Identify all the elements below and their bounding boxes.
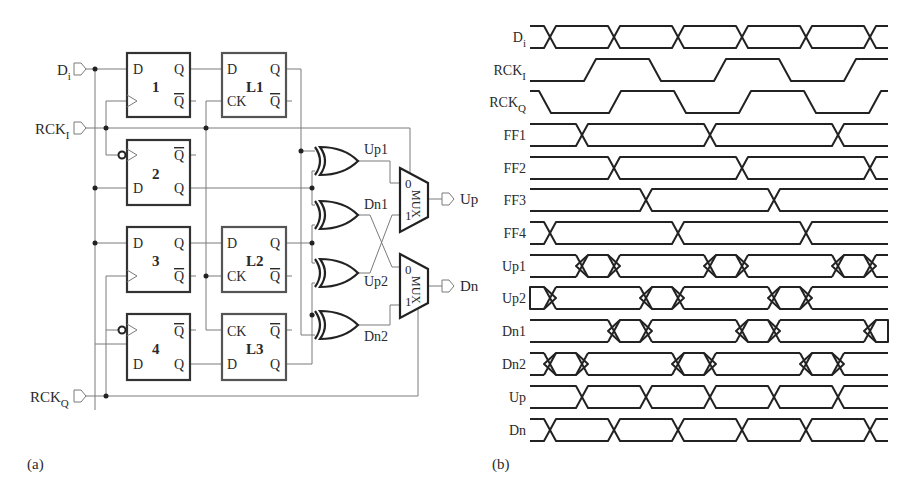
flipflop-2: D Q Q 2 (119, 140, 191, 205)
xor-label-dn1: Dn1 (364, 197, 388, 212)
svg-text:D: D (133, 236, 143, 251)
waveforms (530, 26, 888, 441)
mux-up: 0 1 MUX (400, 168, 428, 232)
signal-label-rcki: RCKI (494, 63, 527, 82)
waveform-rckq (530, 91, 888, 113)
svg-text:L3: L3 (246, 341, 264, 357)
inverted-clock-bubble (119, 327, 126, 334)
svg-text:CK: CK (227, 269, 246, 284)
svg-text:MUX: MUX (409, 190, 423, 218)
svg-text:Q: Q (174, 324, 184, 339)
signal-labels: DiRCKIRCKQFF1FF2FF3FF4Up1Up2Dn1Dn2UpDn (489, 30, 526, 438)
signal-label-ff1: FF1 (503, 128, 526, 143)
svg-text:Q: Q (174, 181, 184, 196)
svg-text:L1: L1 (246, 79, 264, 95)
svg-text:Dn: Dn (460, 278, 479, 294)
svg-text:1: 1 (152, 79, 160, 95)
waveform-dn1 (530, 320, 888, 342)
svg-text:Q: Q (270, 62, 280, 77)
xor-gate-dn1 (315, 201, 358, 229)
waveform-rcki (530, 59, 888, 81)
svg-text:CK: CK (227, 324, 246, 339)
xor-label-up1: Up1 (364, 142, 388, 157)
waveform-ff3 (530, 189, 888, 211)
signal-label-dn1: Dn1 (502, 324, 526, 339)
svg-text:Q: Q (174, 62, 184, 77)
signal-label-dn: Dn (509, 423, 526, 438)
waveform-up1 (530, 255, 888, 277)
svg-text:RCKQ: RCKQ (30, 389, 69, 409)
signal-label-up: Up (509, 390, 526, 405)
svg-text:CK: CK (227, 94, 246, 109)
svg-text:MUX: MUX (409, 276, 423, 304)
svg-text:Q: Q (174, 269, 184, 284)
svg-text:RCKI: RCKI (35, 121, 70, 141)
signal-label-ff4: FF4 (503, 226, 526, 241)
svg-text:L2: L2 (246, 253, 264, 269)
signal-label-di: Di (513, 30, 526, 49)
latch-l2: D CK Q Q L2 (222, 227, 286, 292)
signal-label-dn2: Dn2 (502, 357, 526, 372)
svg-text:D: D (133, 62, 143, 77)
waveform-up2 (530, 287, 888, 309)
figure: Di RCKI RCKQ D Q Q 1 D Q Q 2 (0, 0, 917, 493)
signal-label-up1: Up1 (502, 259, 526, 274)
svg-text:Q: Q (270, 269, 280, 284)
signal-label-ff3: FF3 (503, 193, 526, 208)
flipflop-4: D Q Q 4 (119, 314, 191, 380)
svg-text:4: 4 (152, 341, 160, 357)
caption-a: (a) (27, 456, 44, 473)
xor-gate-dn2 (315, 311, 358, 339)
xor-label-dn2: Dn2 (364, 329, 388, 344)
svg-text:D: D (133, 357, 143, 372)
svg-text:Q: Q (270, 357, 280, 372)
svg-text:D: D (227, 236, 237, 251)
svg-text:3: 3 (152, 253, 160, 269)
xor-gate-up2 (315, 259, 358, 287)
svg-text:Q: Q (270, 236, 280, 251)
svg-text:Q: Q (174, 357, 184, 372)
circuit-panel: Di RCKI RCKQ D Q Q 1 D Q Q 2 (27, 53, 479, 473)
signal-label-up2: Up2 (502, 291, 526, 306)
input-port-di: Di (57, 62, 86, 82)
input-label-di: Di (57, 62, 71, 82)
output-port-up: Up (442, 191, 478, 207)
waveform-di (530, 26, 888, 48)
waveform-ff1 (530, 124, 888, 146)
inverted-clock-bubble (119, 152, 126, 159)
svg-text:Q: Q (174, 94, 184, 109)
timing-panel: DiRCKIRCKQFF1FF2FF3FF4Up1Up2Dn1Dn2UpDn (… (489, 26, 888, 473)
svg-text:Q: Q (174, 236, 184, 251)
svg-text:D: D (227, 357, 237, 372)
caption-b: (b) (492, 456, 510, 473)
waveform-ff2 (530, 157, 888, 179)
xor-label-up2: Up2 (364, 274, 388, 289)
svg-text:D: D (227, 62, 237, 77)
input-port-rckq: RCKQ (30, 389, 86, 409)
output-port-dn: Dn (442, 278, 479, 294)
svg-text:0: 0 (405, 262, 412, 277)
waveform-dn2 (530, 353, 888, 375)
svg-text:Up: Up (460, 191, 478, 207)
flipflop-3: D Q Q 3 (127, 227, 190, 292)
flipflop-1: D Q Q 1 (127, 53, 190, 117)
svg-text:Q: Q (270, 324, 280, 339)
xor-gate-up1 (315, 147, 358, 175)
svg-text:D: D (133, 181, 143, 196)
waveform-dn (530, 419, 888, 441)
latch-l3: CK D Q Q L3 (222, 314, 286, 380)
svg-text:Q: Q (270, 94, 280, 109)
mux-dn: 0 1 MUX (400, 254, 428, 318)
signal-label-rckq: RCKQ (489, 95, 526, 114)
svg-text:0: 0 (405, 176, 412, 191)
signal-label-ff2: FF2 (503, 161, 526, 176)
svg-text:Q: Q (174, 148, 184, 163)
input-port-rcki: RCKI (35, 121, 86, 141)
waveform-ff4 (530, 222, 888, 244)
latch-l1: D CK Q Q L1 (222, 53, 286, 117)
svg-text:2: 2 (152, 166, 160, 182)
waveform-up (530, 386, 888, 408)
